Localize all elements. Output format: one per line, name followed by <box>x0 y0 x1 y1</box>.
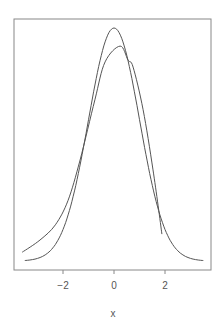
x-axis-label: x <box>111 308 116 319</box>
x-tick-label: 0 <box>111 280 117 291</box>
empirical-density-line <box>22 46 162 252</box>
normal-density-line <box>25 28 204 261</box>
x-axis: −202 <box>57 270 168 291</box>
density-plot: −202 x <box>0 0 221 333</box>
x-tick-label: 2 <box>162 280 168 291</box>
x-tick-label: −2 <box>57 280 69 291</box>
series-layer <box>22 28 203 261</box>
plot-frame <box>14 19 211 270</box>
